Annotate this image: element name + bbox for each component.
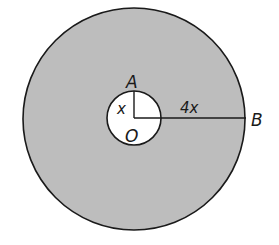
concentric-circles-diagram: A x O 4x B [0,0,279,245]
label-O: O [125,126,138,146]
label-A: A [125,72,138,92]
label-4x: 4x [180,99,199,117]
label-x: x [116,100,126,118]
label-B: B [251,110,263,130]
